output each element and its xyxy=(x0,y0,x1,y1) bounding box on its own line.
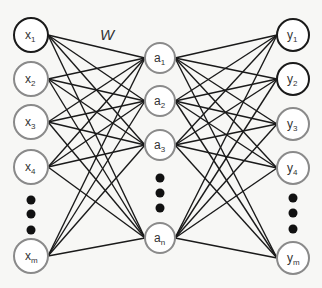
network-canvas: x1x2x3x4xma1a2a3any1y2y3y4ym W xyxy=(0,0,322,288)
ellipsis-dot xyxy=(289,194,298,203)
connection-edge xyxy=(175,35,277,145)
connection-edge xyxy=(48,58,145,79)
connection-edge xyxy=(175,35,277,58)
hidden-node-a1: a1 xyxy=(145,43,175,73)
ellipsis-dot xyxy=(156,174,165,183)
ellipsis-dot xyxy=(27,196,36,205)
hidden-node-a2: a2 xyxy=(145,86,175,116)
input-node-x1: x1 xyxy=(14,18,48,52)
connection-edge xyxy=(48,35,145,58)
output-node-y3: y3 xyxy=(277,108,309,140)
input-node-xm: xm xyxy=(14,239,48,273)
input-node-x3: x3 xyxy=(14,105,48,139)
connection-edge xyxy=(48,122,145,238)
connection-edge xyxy=(175,35,277,238)
ellipsis-dot xyxy=(27,226,36,235)
hidden-node-an: an xyxy=(145,223,175,253)
output-node-y4: y4 xyxy=(277,152,309,184)
ellipsis-dot xyxy=(289,209,298,218)
output-node-ym: ym xyxy=(277,242,309,274)
input-node-x4: x4 xyxy=(14,150,48,184)
connection-edge xyxy=(48,35,145,238)
connection-edge xyxy=(48,145,145,256)
ellipsis-dot xyxy=(156,189,165,198)
ellipsis-dot xyxy=(156,204,165,213)
connection-edge xyxy=(175,145,277,168)
weight-matrix-label: W xyxy=(100,26,116,43)
output-node-y2: y2 xyxy=(277,63,309,95)
output-node-y1: y1 xyxy=(277,19,309,51)
input-node-x2: x2 xyxy=(14,62,48,96)
connection-edge xyxy=(48,238,145,256)
ellipsis-dot xyxy=(289,225,298,234)
neural-network-diagram: x1x2x3x4xma1a2a3any1y2y3y4ym W xyxy=(0,0,322,288)
ellipsis-dot xyxy=(27,210,36,219)
connection-edge xyxy=(175,124,277,238)
connection-edge xyxy=(175,101,277,258)
hidden-node-a3: a3 xyxy=(145,130,175,160)
